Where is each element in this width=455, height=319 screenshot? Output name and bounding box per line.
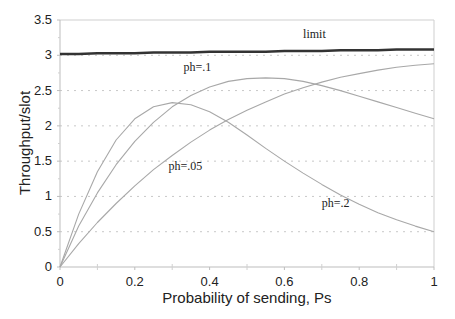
plot-frame (60, 20, 434, 267)
y-tick-label: 2 (45, 118, 52, 133)
y-tick-label: 3 (45, 47, 52, 62)
series-annotation: ph=.1 (183, 60, 211, 74)
series-line-ph05 (60, 103, 434, 267)
x-axis-title: Probability of sending, Ps (162, 289, 331, 306)
y-tick-label: 0.5 (34, 224, 52, 239)
series-annotation: ph=.05 (168, 159, 202, 173)
y-tick-label: 1.5 (34, 153, 52, 168)
data-series (60, 50, 434, 267)
series-annotation: ph=.2 (322, 196, 350, 210)
x-tick-label: 0.4 (201, 274, 219, 289)
y-axis-title: Throughput/slot (16, 90, 33, 195)
gridlines (60, 55, 434, 231)
y-tick-label: 3.5 (34, 12, 52, 27)
x-tick-label: 1 (430, 274, 437, 289)
throughput-chart: 00.511.522.533.500.20.40.60.81 limitph=.… (0, 0, 455, 319)
annotations: limitph=.1ph=.05ph=.2 (168, 27, 349, 210)
series-line-ph1 (60, 78, 434, 267)
y-tick-label: 0 (45, 259, 52, 274)
series-annotation: limit (303, 27, 326, 41)
y-tick-label: 1 (45, 188, 52, 203)
x-tick-label: 0 (56, 274, 63, 289)
x-tick-label: 0.6 (275, 274, 293, 289)
x-tick-label: 0.2 (126, 274, 144, 289)
series-line-limit (60, 50, 434, 54)
y-tick-label: 2.5 (34, 83, 52, 98)
x-tick-label: 0.8 (350, 274, 368, 289)
